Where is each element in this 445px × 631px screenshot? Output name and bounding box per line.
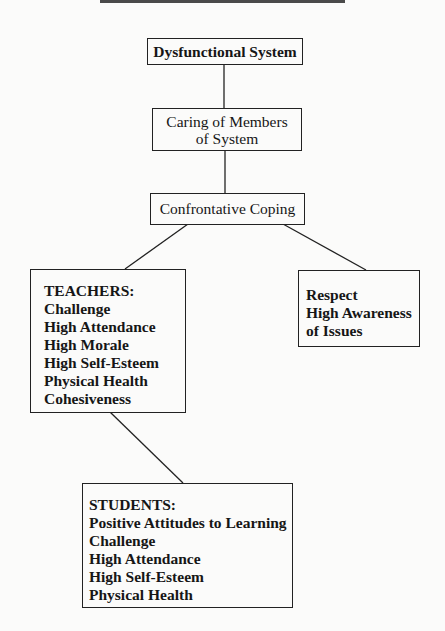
edge-coping-teachers bbox=[125, 224, 188, 269]
node-teachers: TEACHERS: Challenge High Attendance High… bbox=[30, 269, 186, 413]
outcome-item: High Attendance bbox=[44, 318, 185, 336]
node-heading: STUDENTS: bbox=[89, 496, 292, 514]
outcome-item: High Morale bbox=[44, 336, 185, 354]
outcome-item: High Awareness bbox=[306, 304, 419, 322]
edge-teachers-students bbox=[110, 412, 183, 483]
outcome-item: of Issues bbox=[306, 322, 419, 340]
outcome-item: Physical Health bbox=[44, 372, 185, 390]
node-heading: TEACHERS: bbox=[44, 282, 185, 300]
node-label-line: Caring of Members bbox=[153, 113, 301, 130]
outcome-item: Positive Attitudes to Learning bbox=[89, 514, 292, 532]
outcome-item: Challenge bbox=[44, 300, 185, 318]
outcome-item: Physical Health bbox=[89, 586, 292, 604]
outcome-item: High Attendance bbox=[89, 550, 292, 568]
outcome-item: Respect bbox=[306, 286, 419, 304]
outcome-item: High Self-Esteem bbox=[89, 568, 292, 586]
node-caring-of-members: Caring of Members of System bbox=[152, 108, 302, 151]
node-label: Dysfunctional System bbox=[153, 43, 296, 60]
outcome-item: Challenge bbox=[89, 532, 292, 550]
node-students: STUDENTS: Positive Attitudes to Learning… bbox=[82, 483, 293, 608]
node-label: Confrontative Coping bbox=[160, 200, 296, 217]
node-label-line: of System bbox=[153, 130, 301, 147]
outcome-item: Cohesiveness bbox=[44, 390, 185, 408]
node-respect: Respect High Awareness of Issues bbox=[298, 270, 420, 347]
edge-coping-respect bbox=[283, 224, 366, 270]
outcome-item: High Self-Esteem bbox=[44, 354, 185, 372]
node-confrontative-coping: Confrontative Coping bbox=[150, 193, 305, 225]
node-dysfunctional-system: Dysfunctional System bbox=[147, 38, 303, 65]
